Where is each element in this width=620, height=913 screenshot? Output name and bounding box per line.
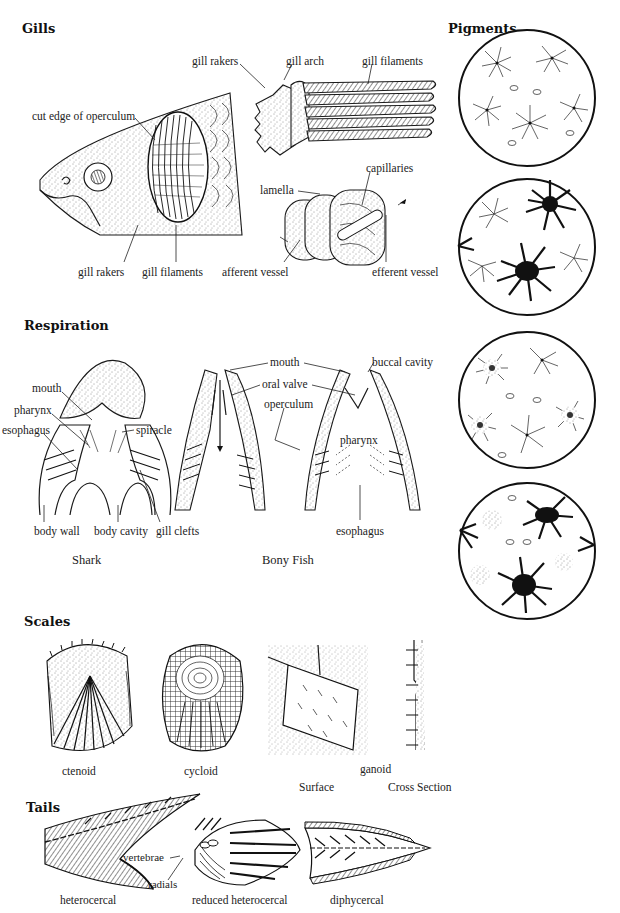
caption-reduced-heterocercal: reduced heterocercal [192, 894, 287, 906]
caption-diphycercal: diphycercal [330, 894, 384, 906]
caption-heterocercal: heterocercal [60, 894, 116, 906]
tails-leader-lines [0, 0, 620, 913]
